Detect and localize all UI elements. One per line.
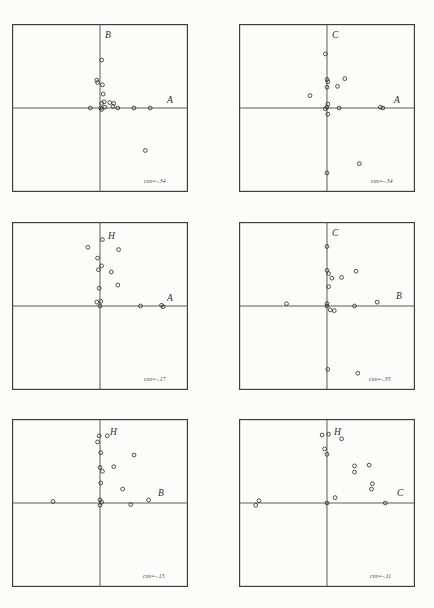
panel-6-cos-annotation: cos=-.11 [370, 573, 391, 579]
data-point [101, 238, 105, 242]
panel-4-y-axis-label: C [332, 228, 339, 238]
data-point [96, 256, 100, 260]
data-point [370, 487, 374, 491]
panel-4-points [285, 245, 379, 376]
data-point [109, 270, 113, 274]
data-point [328, 308, 332, 312]
data-point [121, 487, 125, 491]
data-point [101, 92, 105, 96]
data-point [147, 498, 151, 502]
panel-6-points [254, 432, 387, 507]
data-point [320, 433, 324, 437]
data-point [285, 302, 289, 306]
figure-panel-grid: B A cos=-.34 C A cos=-.34 [0, 0, 434, 608]
scatter-panel-2: C A cos=-.34 [239, 24, 415, 192]
data-point [86, 245, 90, 249]
scatter-panel-5: H B cos=-.15 [12, 419, 188, 587]
data-point [97, 434, 101, 438]
data-point [323, 447, 327, 451]
panel-5-x-axis-label: B [158, 488, 164, 498]
panel-2-x-axis-label: A [393, 95, 400, 105]
data-point [353, 464, 357, 468]
panel-3-cos-annotation: cos=-.17 [144, 376, 166, 382]
data-point [340, 276, 344, 280]
panel-3-x-axis-label: A [166, 293, 173, 303]
data-point [116, 283, 120, 287]
data-point [308, 94, 312, 98]
panel-2-points [308, 52, 385, 175]
data-point [101, 83, 105, 87]
panel-6-x-axis-label: C [397, 488, 404, 498]
panel-1-x-axis-label: A [166, 95, 173, 105]
data-point [95, 300, 99, 304]
panel-5-y-axis-label: H [109, 427, 118, 437]
data-point [132, 453, 136, 457]
data-point [143, 149, 147, 153]
data-point [333, 496, 337, 500]
data-point [95, 78, 99, 82]
data-point [99, 451, 103, 455]
data-point [332, 309, 336, 313]
data-point [340, 437, 344, 441]
panel-5-points [51, 434, 150, 507]
data-point [105, 434, 109, 438]
panel-2-cos-annotation: cos=-.34 [371, 178, 393, 184]
panel-6-plot: H C cos=-.11 [239, 419, 415, 587]
data-point [370, 482, 374, 486]
data-point [326, 367, 330, 371]
panel-1-plot: B A cos=-.34 [12, 24, 188, 192]
data-point [336, 84, 340, 88]
data-point [357, 162, 361, 166]
data-point [354, 269, 358, 273]
panel-4-plot: C B cos=-.35 [239, 222, 415, 390]
panel-1-points [88, 58, 152, 152]
data-point [353, 470, 357, 474]
data-point [367, 463, 371, 467]
panel-2-plot: C A cos=-.34 [239, 24, 415, 192]
panel-3-y-axis-label: H [107, 231, 116, 241]
data-point [99, 481, 103, 485]
panel-3-points [86, 238, 165, 309]
data-point [330, 276, 334, 280]
data-point [254, 503, 258, 507]
data-point [99, 299, 103, 303]
data-point [96, 440, 100, 444]
data-point [326, 112, 330, 116]
panel-5-plot: H B cos=-.15 [12, 419, 188, 587]
scatter-panel-3: H A cos=-.17 [12, 222, 188, 390]
scatter-panel-1: B A cos=-.34 [12, 24, 188, 192]
panel-2-y-axis-label: C [332, 30, 339, 40]
data-point [375, 300, 379, 304]
data-point [97, 286, 101, 290]
panel-4-x-axis-label: B [396, 291, 402, 301]
data-point [257, 499, 261, 503]
data-point [108, 101, 112, 105]
data-point [379, 105, 383, 109]
panel-4-cos-annotation: cos=-.35 [369, 376, 391, 382]
scanned-page: B A cos=-.34 C A cos=-.34 [0, 0, 434, 608]
scatter-panel-4: C B cos=-.35 [239, 222, 415, 390]
data-point [343, 77, 347, 81]
panel-3-plot: H A cos=-.17 [12, 222, 188, 390]
scatter-panel-6: H C cos=-.11 [239, 419, 415, 587]
data-point [117, 248, 121, 252]
data-point [326, 80, 330, 84]
data-point [96, 81, 100, 85]
panel-1-y-axis-label: B [105, 30, 111, 40]
data-point [101, 469, 105, 473]
panel-6-y-axis-label: H [333, 427, 342, 437]
panel-5-cos-annotation: cos=-.15 [143, 573, 165, 579]
panel-1-cos-annotation: cos=-.34 [144, 178, 166, 184]
data-point [112, 465, 116, 469]
data-point [356, 371, 360, 375]
